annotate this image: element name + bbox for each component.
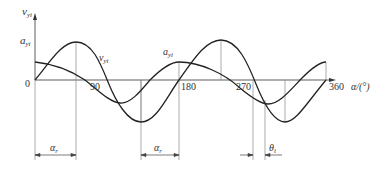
guide-lines xyxy=(35,40,326,160)
alpha-r-label-2: αr xyxy=(154,142,162,155)
y-tick-label: ayi xyxy=(20,34,31,48)
x-tick-270: 270 xyxy=(236,81,251,92)
theta-i-label: θi xyxy=(269,142,276,155)
x-axis-label: α/(°) xyxy=(351,81,370,93)
x-tick-90: 90 xyxy=(90,81,100,92)
a-curve-label: ayi xyxy=(163,46,173,59)
y-axis-label: vyi xyxy=(22,5,32,19)
x-tick-360: 360 xyxy=(329,81,344,92)
x-tick-180: 180 xyxy=(181,81,196,92)
alpha-r-label-1: αr xyxy=(50,142,58,155)
y-axis-arrow-icon xyxy=(33,13,37,20)
origin-label: 0 xyxy=(25,78,30,89)
waveform-diagram: vyi ayi 0 90 180 270 360 α/(°) vyi ayi α… xyxy=(0,0,391,171)
diagram-canvas: vyi ayi 0 90 180 270 360 α/(°) vyi ayi α… xyxy=(0,0,391,171)
